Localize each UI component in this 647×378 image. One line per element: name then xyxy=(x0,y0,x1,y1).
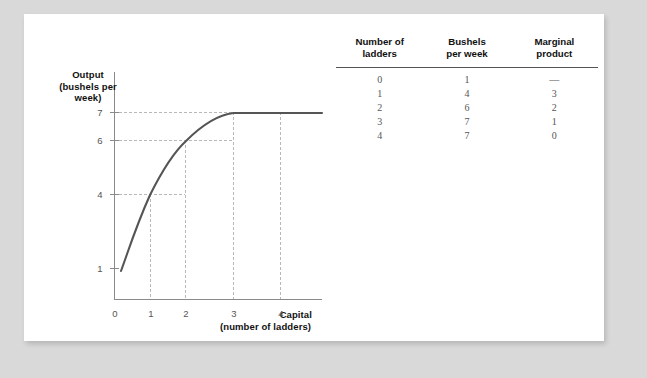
cell-ladders: 3 xyxy=(336,115,423,129)
cell-marginal: 0 xyxy=(511,129,598,143)
data-table: Number of ladders Bushels per week Margi… xyxy=(336,36,598,143)
chart-canvas xyxy=(24,14,344,341)
y-tick-label-7: 7 xyxy=(92,108,108,118)
cell-ladders: 1 xyxy=(336,87,423,101)
production-function-chart: Output (bushels per week) Capital (numbe… xyxy=(24,14,344,341)
axes xyxy=(114,72,322,300)
x-tick-label-1: 1 xyxy=(143,309,159,319)
table-row: 3 7 1 xyxy=(336,115,598,129)
column-header-bushels: Bushels per week xyxy=(423,36,510,67)
column-header-ladders-line2: ladders xyxy=(336,48,423,60)
column-header-marginal-line2: product xyxy=(511,48,598,60)
y-axis-title-line1: Output xyxy=(72,69,104,80)
y-axis-title-line2: (bushels per xyxy=(59,81,117,92)
y-tick-label-1: 1 xyxy=(92,264,108,274)
cell-ladders: 2 xyxy=(336,101,423,115)
cell-marginal: 1 xyxy=(511,115,598,129)
x-tick-label-2: 2 xyxy=(178,309,194,319)
cell-ladders: 4 xyxy=(336,129,423,143)
table-row: 0 1 — xyxy=(336,67,598,87)
table-row: 2 6 2 xyxy=(336,101,598,115)
cell-bushels: 1 xyxy=(423,67,510,87)
table-header-row: Number of ladders Bushels per week Margi… xyxy=(336,36,598,67)
y-tick-label-6: 6 xyxy=(92,136,108,146)
column-header-bushels-line1: Bushels xyxy=(423,36,510,48)
column-header-marginal: Marginal product xyxy=(511,36,598,67)
production-function-curve xyxy=(121,113,322,271)
table-row: 1 4 3 xyxy=(336,87,598,101)
x-tick-label-3: 3 xyxy=(226,309,242,319)
column-header-ladders-line1: Number of xyxy=(336,36,423,48)
table-head: Number of ladders Bushels per week Margi… xyxy=(336,36,598,67)
y-tick-label-4: 4 xyxy=(92,190,108,200)
column-header-marginal-line1: Marginal xyxy=(511,36,598,48)
table-row: 4 7 0 xyxy=(336,129,598,143)
x-tick-label-4: 4 xyxy=(273,309,289,319)
cell-bushels: 7 xyxy=(423,129,510,143)
x-axis-title-sub: (number of ladders) xyxy=(220,321,350,333)
column-header-bushels-line2: per week xyxy=(423,48,510,60)
cell-bushels: 4 xyxy=(423,87,510,101)
column-header-ladders: Number of ladders xyxy=(336,36,423,67)
marginal-product-table: Number of ladders Bushels per week Margi… xyxy=(336,36,604,176)
cell-bushels: 6 xyxy=(423,101,510,115)
table-body: 0 1 — 1 4 3 2 6 2 3 xyxy=(336,67,598,143)
y-axis-title-line3: week) xyxy=(75,92,102,103)
cell-marginal: — xyxy=(511,67,598,87)
cell-ladders: 0 xyxy=(336,67,423,87)
figure-card: Output (bushels per week) Capital (numbe… xyxy=(24,14,604,341)
x-tick-label-0: 0 xyxy=(107,309,123,319)
horizontal-guide-lines xyxy=(114,113,280,195)
y-axis-title: Output (bushels per week) xyxy=(52,69,124,104)
cell-marginal: 3 xyxy=(511,87,598,101)
page-root: Output (bushels per week) Capital (numbe… xyxy=(0,0,647,378)
cell-marginal: 2 xyxy=(511,101,598,115)
cell-bushels: 7 xyxy=(423,115,510,129)
